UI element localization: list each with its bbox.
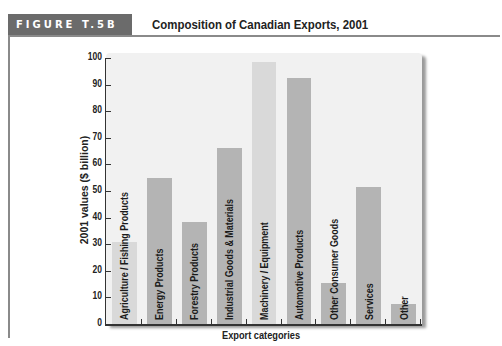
bar: Agriculture / Fishing Products <box>112 242 137 324</box>
bar-category-label: Forestry Products <box>188 243 200 320</box>
y-tick-mark <box>106 191 111 192</box>
y-axis-title: 2001 values ($ billion) <box>78 136 90 245</box>
y-tick-mark <box>106 271 111 272</box>
left-divider <box>8 36 10 338</box>
bar: Services <box>356 187 381 324</box>
y-tick-label: 10 <box>82 290 102 301</box>
bar: Energy Products <box>147 178 172 324</box>
x-tick-mark <box>176 319 177 324</box>
x-tick-mark <box>281 319 282 324</box>
top-divider <box>8 35 500 37</box>
y-tick-mark <box>106 218 111 219</box>
y-tick-label: 100 <box>82 51 102 62</box>
y-tick-label: 80 <box>82 104 102 115</box>
bar-category-label: Industrial Goods & Materials <box>223 199 235 320</box>
y-tick-mark <box>106 111 111 112</box>
x-tick-mark <box>385 319 386 324</box>
x-tick-mark <box>315 319 316 324</box>
x-tick-mark <box>350 319 351 324</box>
y-tick-mark <box>106 85 111 86</box>
bar: Industrial Goods & Materials <box>217 148 242 324</box>
bar: Other Consumer Goods <box>321 283 346 324</box>
bar-category-label: Services <box>363 283 375 320</box>
x-tick-mark <box>246 319 247 324</box>
bar-category-label: Machinery / Equipment <box>258 222 270 320</box>
x-tick-mark <box>211 319 212 324</box>
bar-category-label: Agriculture / Fishing Products <box>118 192 130 320</box>
y-tick-mark <box>106 324 111 325</box>
bar: Machinery / Equipment <box>252 62 277 324</box>
figure-label: FIGURE T.5B <box>8 14 132 36</box>
bar-category-label: Other Consumer Goods <box>328 219 340 320</box>
bar: Other <box>391 304 416 324</box>
y-tick-mark <box>106 164 111 165</box>
y-tick-mark <box>106 138 111 139</box>
y-tick-label: 90 <box>82 78 102 89</box>
x-axis <box>105 324 422 326</box>
bar-category-label: Other <box>398 296 410 320</box>
bar-category-label: Energy Products <box>153 249 165 320</box>
bar: Forestry Products <box>182 222 207 324</box>
x-tick-mark <box>420 319 421 324</box>
figure-title: Composition of Canadian Exports, 2001 <box>152 14 368 36</box>
bar-category-label: Automotive Products <box>293 230 305 320</box>
x-tick-mark <box>141 319 142 324</box>
x-axis-title: Export categories <box>222 329 300 341</box>
y-tick-label: 20 <box>82 264 102 275</box>
y-tick-label: 0 <box>82 317 102 328</box>
y-tick-mark <box>106 297 111 298</box>
y-tick-mark <box>106 244 111 245</box>
y-tick-mark <box>106 58 111 59</box>
bar: Automotive Products <box>287 78 312 324</box>
